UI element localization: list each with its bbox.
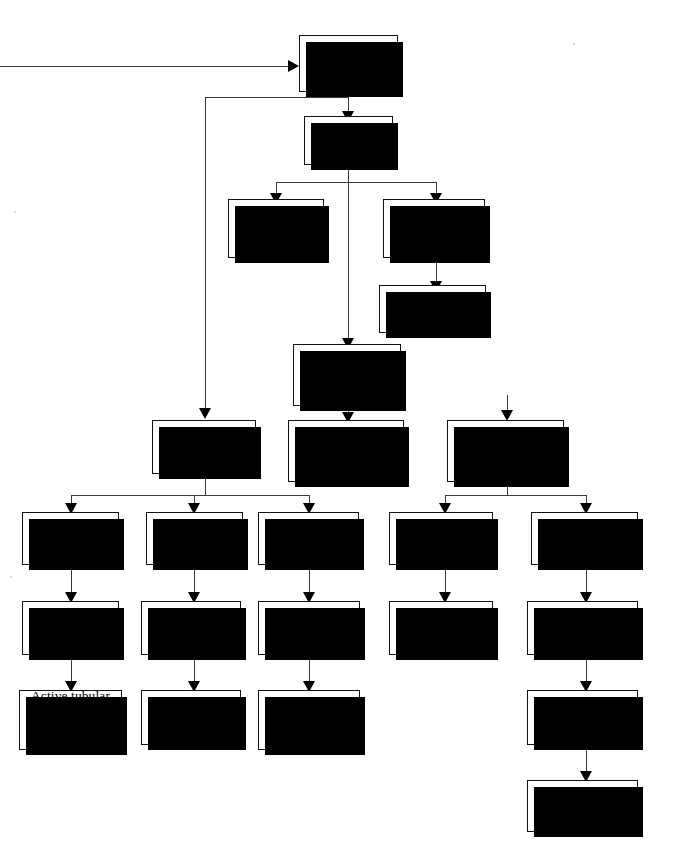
node-erythropoietin-deficiency[interactable]: Erythropoietin deficiency bbox=[379, 285, 486, 333]
page-speck bbox=[573, 43, 575, 45]
node-urine-changes[interactable]: Urine changes bbox=[152, 420, 256, 474]
node-label: ↑ Protein:Cr ratio bbox=[271, 523, 347, 555]
node-label: ↑ Parathormone bbox=[535, 710, 630, 726]
node-active-urine-sediment[interactable]: Active urine sediment bbox=[22, 601, 119, 655]
connector-combined-bus bbox=[445, 495, 586, 496]
node-label: ↑ FeP bbox=[565, 531, 605, 547]
node-increased-ggt-cr-ratio[interactable]: ↑ GGT:Cr ratio bbox=[146, 512, 243, 565]
node-graphing-permits-evaluating-results[interactable]: Graphing permits evaluating results of t… bbox=[288, 420, 404, 482]
node-label: Signs of progressive deterioration bbox=[309, 40, 387, 88]
node-combined-urine-and-blood-parameters[interactable]: Combined urine and blood parameters bbox=[447, 420, 564, 482]
node-label: Suggests ↑ parathormone bbox=[535, 612, 630, 644]
node-label: Erythropoietin deficiency bbox=[388, 293, 476, 325]
node-label: Decreasing 1/Cr predicts rate of change bbox=[298, 351, 396, 399]
node-increased-protein-cr-ratio[interactable]: ↑ Protein:Cr ratio bbox=[258, 512, 359, 565]
connector-blood-bus bbox=[276, 182, 436, 183]
node-label: ↓ RBC with ↓ reticuloytes bbox=[393, 213, 476, 245]
page-speck bbox=[14, 211, 16, 213]
node-label: ↑ GGT:Cr ratio bbox=[163, 523, 226, 555]
connector-bus-to-urine bbox=[205, 97, 206, 412]
connector-entry-horizontal bbox=[0, 66, 288, 67]
node-signs-of-progressive-deterioration[interactable]: Signs of progressive deterioration bbox=[299, 35, 398, 92]
node-label: Casts, cells bbox=[36, 531, 106, 547]
node-hyperparathyroidism[interactable]: Hyperpara- thyroidism bbox=[527, 780, 638, 832]
node-increased-fena[interactable]: ↑ FeNa bbox=[389, 512, 493, 565]
node-active-glomerular-lesion[interactable]: Active glomerular lesion bbox=[258, 690, 360, 750]
node-enzymuria[interactable]: Enzymuria bbox=[141, 601, 241, 655]
node-active-tubular-or-glomerular-damage[interactable]: Active tubular or glomerular damage bbox=[19, 690, 122, 750]
node-casts-cells[interactable]: Casts, cells bbox=[22, 512, 119, 565]
node-label: Active glomerular lesion bbox=[275, 696, 343, 744]
node-label: Active urine sediment bbox=[32, 612, 108, 644]
node-suggests-increased-parathormone[interactable]: Suggests ↑ parathormone bbox=[527, 601, 638, 655]
connector-blood-to-cr bbox=[348, 182, 349, 342]
node-label: Combined urine and blood parameters bbox=[457, 427, 554, 475]
page-speck bbox=[10, 576, 12, 578]
node-label: Proteinuria bbox=[274, 620, 343, 636]
node-active-tubular-necrosis[interactable]: Active tubular necrosis bbox=[141, 690, 241, 745]
node-proteinuria[interactable]: Proteinuria bbox=[258, 601, 360, 655]
node-label: Urine changes bbox=[178, 431, 230, 463]
node-label: ↑ FeNa bbox=[417, 531, 465, 547]
node-increased-parathormone[interactable]: ↑ Parathormone bbox=[527, 690, 638, 745]
node-rising-bun-and-creatinine[interactable]: Rising BUN and creatinine bbox=[228, 199, 324, 258]
node-label: Graphing permits evaluating results of t… bbox=[294, 427, 399, 475]
arrow-to-urine bbox=[199, 408, 211, 419]
node-active-tubular-damage[interactable]: Active tubular damage bbox=[389, 601, 493, 655]
connector-entry-arrow bbox=[288, 60, 299, 72]
node-label: Blood changes bbox=[322, 125, 374, 157]
node-blood-changes[interactable]: Blood changes bbox=[304, 116, 393, 165]
node-decreasing-1-over-cr[interactable]: Decreasing 1/Cr predicts rate of change bbox=[293, 344, 401, 406]
node-label: Active tubular necrosis bbox=[148, 702, 235, 734]
connector-top-bus bbox=[205, 97, 349, 98]
node-decreased-rbc-with-decreased-reticuloytes[interactable]: ↓ RBC with ↓ reticuloytes bbox=[383, 199, 485, 258]
node-label: Enzymuria bbox=[157, 620, 225, 636]
flowchart-canvas: Signs of progressive deterioration Blood… bbox=[0, 0, 676, 853]
node-label: Rising BUN and creatinine bbox=[238, 205, 314, 253]
node-increased-fep[interactable]: ↑ FeP bbox=[531, 512, 638, 565]
node-label: Hyperpara- thyroidism bbox=[547, 790, 617, 822]
connector-urine-bus bbox=[71, 495, 309, 496]
node-label: Active tubular or glomerular damage bbox=[20, 688, 121, 752]
node-label: Active tubular damage bbox=[398, 612, 485, 644]
